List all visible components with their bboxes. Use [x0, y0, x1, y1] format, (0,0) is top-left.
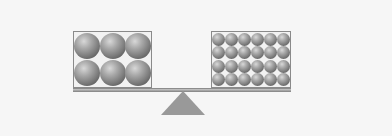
sphere [225, 33, 238, 46]
sphere [251, 60, 264, 73]
fulcrum-triangle-icon [161, 91, 205, 115]
sphere [225, 60, 238, 73]
sphere [264, 73, 277, 86]
sphere [277, 60, 290, 73]
sphere [238, 73, 251, 86]
sphere [238, 33, 251, 46]
sphere [238, 60, 251, 73]
balance-scale-diagram: 6 large spheres 24 small spheres [0, 0, 392, 136]
sphere [238, 46, 251, 59]
sphere [251, 33, 264, 46]
sphere [277, 33, 290, 46]
sphere [277, 46, 290, 59]
right-pan-box: 24 small spheres [211, 31, 291, 88]
sphere [212, 46, 225, 59]
sphere [100, 33, 126, 59]
sphere [212, 60, 225, 73]
sphere [225, 73, 238, 86]
sphere [264, 60, 277, 73]
sphere [225, 46, 238, 59]
sphere [74, 60, 100, 86]
sphere [125, 60, 151, 86]
left-pan-box: 6 large spheres [73, 31, 152, 88]
sphere [277, 73, 290, 86]
sphere [264, 46, 277, 59]
sphere [264, 33, 277, 46]
sphere [125, 33, 151, 59]
sphere [212, 33, 225, 46]
sphere [251, 46, 264, 59]
sphere [100, 60, 126, 86]
sphere [251, 73, 264, 86]
sphere [74, 33, 100, 59]
sphere [212, 73, 225, 86]
